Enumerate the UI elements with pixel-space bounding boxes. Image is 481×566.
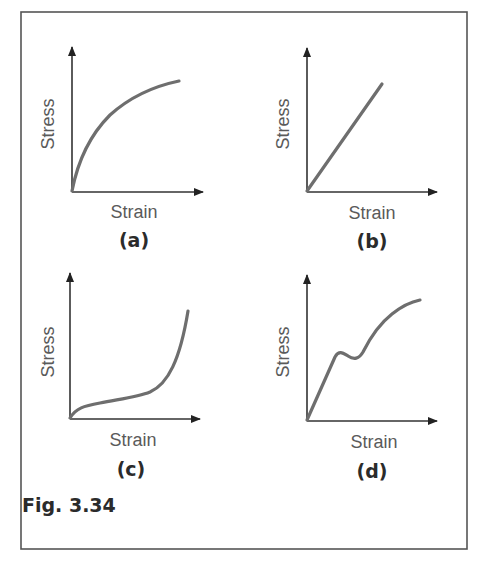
y-axis-label: Stress [38,98,58,149]
figure-3-34: Stress Strain (a) Stress Strain (b) Stre… [0,0,481,566]
panel-d: Stress Strain (d) [273,275,437,482]
stress-strain-curve [72,81,179,191]
panel-label: (c) [117,458,146,480]
x-axis-label: Strain [348,203,395,223]
y-axis-label: Stress [38,326,58,377]
panel-label: (b) [357,230,388,252]
panel-b: Stress Strain (b) [273,48,437,252]
stress-strain-curve [307,300,420,420]
stress-strain-curve [307,84,382,191]
y-axis-label: Stress [273,326,293,377]
panel-c: Stress Strain (c) [38,273,200,480]
figure-caption: Fig. 3.34 [22,494,116,516]
panel-label: (d) [357,460,388,482]
figure-frame [21,12,467,549]
x-axis-label: Strain [109,430,156,450]
x-axis-label: Strain [350,432,397,452]
x-axis-label: Strain [110,202,157,222]
stress-strain-curve [70,311,188,418]
y-axis-label: Stress [273,98,293,149]
panel-label: (a) [119,229,149,251]
panel-a: Stress Strain (a) [38,47,203,251]
